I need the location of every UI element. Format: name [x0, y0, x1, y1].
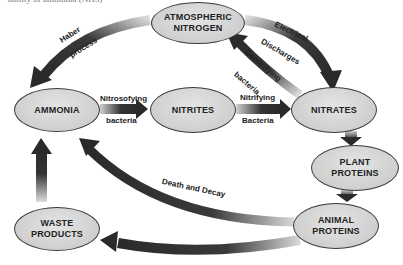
arrow-animal-to-waste: [118, 240, 300, 250]
node-label-line1: ATMOSPHERIC: [164, 12, 232, 23]
arrowhead-waste-to-ammonia: [31, 138, 52, 154]
label-bacteria-nitrif: Bacteria: [242, 116, 274, 125]
node-animal-proteins: ANIMAL PROTEINS: [293, 203, 379, 249]
node-label: NITRATES: [311, 105, 357, 116]
arrowhead-animal-to-waste: [100, 231, 118, 252]
node-label-line2: NITROGEN: [173, 23, 222, 34]
arrow-waste-to-ammonia: [36, 150, 47, 202]
node-plant-proteins: PLANT PROTEINS: [311, 145, 399, 191]
arrow-nitrosofying: [100, 104, 138, 114]
label-nitrosofying: Nitrosofying: [100, 94, 147, 103]
arrowhead-plant-to-animal: [336, 194, 358, 202]
node-label-line1: WASTE: [40, 218, 73, 229]
node-label-line1: PLANT: [340, 157, 371, 168]
arrowhead-nitrifying: [280, 99, 291, 119]
node-ammonia: AMMONIA: [14, 88, 100, 132]
label-nitrifying: Nitrifying: [240, 93, 275, 102]
node-nitrites: NITRITES: [150, 87, 236, 133]
nitrogen-cycle-diagram: ability of ammonia (NH3): [0, 0, 403, 265]
node-label-line2: PRODUCTS: [31, 229, 83, 240]
node-label-line2: PROTEINS: [312, 226, 360, 237]
node-label-line2: PROTEINS: [331, 168, 379, 179]
label-bacteria-nitroso: bacteria: [106, 116, 137, 125]
node-waste-products: WASTE PRODUCTS: [14, 207, 100, 251]
arrow-haber-process: [44, 20, 150, 75]
node-atmospheric-nitrogen: ATMOSPHERIC NITROGEN: [151, 2, 245, 44]
node-nitrates: NITRATES: [291, 87, 377, 133]
node-label-line1: ANIMAL: [318, 215, 354, 226]
node-label: AMMONIA: [34, 105, 79, 116]
node-label: NITRITES: [172, 105, 215, 116]
arrow-nitrifying: [236, 104, 282, 114]
